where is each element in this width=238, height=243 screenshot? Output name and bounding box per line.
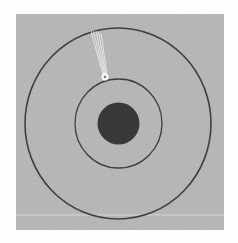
diagram-canvas [0,0,238,243]
nucleus [98,103,140,145]
particle [101,73,109,81]
particle-core [104,76,107,79]
orbit-diagram [0,0,238,243]
